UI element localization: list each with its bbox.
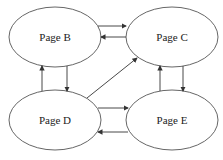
graph-svg	[0, 0, 223, 160]
edge-d-c	[87, 58, 137, 98]
node-c-label: Page C	[156, 31, 187, 43]
node-e-label: Page E	[157, 114, 188, 126]
node-b-label: Page B	[39, 31, 70, 43]
diagram-canvas: Page B Page C Page D Page E	[0, 0, 223, 160]
node-d-label: Page D	[39, 114, 71, 126]
figure-caption	[52, 155, 168, 160]
